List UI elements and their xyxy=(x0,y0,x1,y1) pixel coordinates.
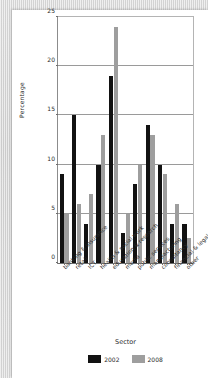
y-axis-label: Percentage xyxy=(18,60,25,140)
bar xyxy=(101,135,105,263)
bar xyxy=(146,125,150,263)
chart-card: Percentage 0510152025 Sector 20022008 ba… xyxy=(12,10,208,378)
y-tick-label: 15 xyxy=(47,105,55,112)
x-axis-label: Sector xyxy=(57,338,194,346)
bar-group xyxy=(181,17,193,263)
bar xyxy=(89,194,93,263)
y-tick-label: 20 xyxy=(47,56,55,63)
bar-group xyxy=(70,17,82,263)
legend-label: 2002 xyxy=(104,356,119,363)
bar xyxy=(64,214,68,263)
bar-chart: Percentage 0510152025 Sector 20022008 ba… xyxy=(12,10,208,378)
bar-group xyxy=(119,17,131,263)
bar xyxy=(60,174,64,263)
bar xyxy=(138,165,142,263)
bar xyxy=(96,165,100,263)
bar-group xyxy=(58,17,70,263)
legend-swatch xyxy=(132,355,145,363)
bar-group xyxy=(83,17,95,263)
y-tick-label: 10 xyxy=(47,154,55,161)
bar-group xyxy=(107,17,119,263)
legend-label: 2008 xyxy=(148,356,163,363)
legend-swatch xyxy=(88,355,101,363)
bar xyxy=(72,115,76,263)
bar-group xyxy=(168,17,180,263)
bar xyxy=(109,76,113,263)
chart-legend: 20022008 xyxy=(57,355,194,363)
legend-item: 2008 xyxy=(132,355,163,363)
y-tick-label: 0 xyxy=(51,253,55,260)
bar xyxy=(150,135,154,263)
y-tick-label: 25 xyxy=(47,7,55,14)
bar xyxy=(114,27,118,263)
plot-area: 0510152025 xyxy=(57,16,194,264)
y-tick-label: 5 xyxy=(51,203,55,210)
legend-item: 2002 xyxy=(88,355,119,363)
